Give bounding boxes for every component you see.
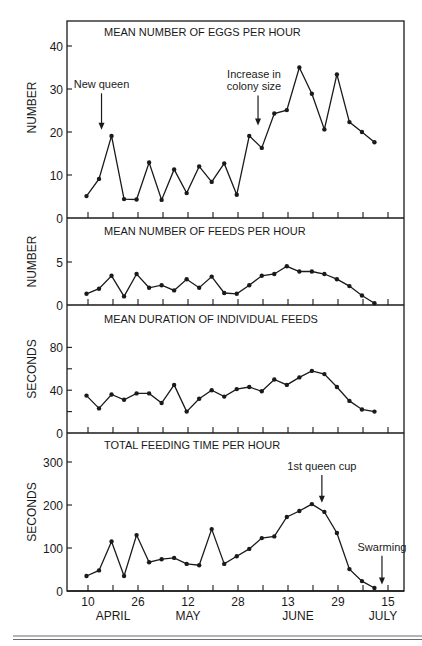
data-point (360, 130, 364, 134)
data-point (247, 283, 251, 287)
x-month-label: JUNE (282, 609, 313, 623)
y-tick-label: 30 (50, 83, 64, 97)
x-month-label: JULY (369, 609, 397, 623)
data-point (310, 502, 314, 506)
data-point (222, 562, 226, 566)
y-tick-label: 0 (56, 212, 63, 226)
panel-title: MEAN NUMBER OF FEEDS PER HOUR (104, 225, 306, 237)
data-point (134, 533, 138, 537)
data-point (122, 197, 126, 201)
data-point (372, 301, 376, 305)
data-point (310, 269, 314, 273)
y-tick-label: 5 (56, 256, 63, 270)
x-month-label: MAY (175, 609, 200, 623)
data-point (347, 567, 351, 571)
data-point (247, 547, 251, 551)
data-point (297, 269, 301, 273)
annotation-text: New queen (74, 78, 130, 90)
data-point (347, 399, 351, 403)
chart-canvas: 010203040MEAN NUMBER OF EGGS PER HOURNUM… (0, 0, 422, 646)
data-point (310, 92, 314, 96)
data-point (247, 134, 251, 138)
data-point (97, 177, 101, 181)
data-point (97, 406, 101, 410)
y-tick-label: 80 (50, 341, 64, 355)
y-tick-label: 0 (56, 585, 63, 599)
x-tick-label: 28 (231, 595, 245, 609)
data-point (272, 272, 276, 276)
x-tick-label: 26 (131, 595, 145, 609)
x-tick-label: 15 (381, 595, 395, 609)
data-point (360, 579, 364, 583)
data-point (235, 387, 239, 391)
data-point (172, 556, 176, 560)
data-point (235, 193, 239, 197)
y-tick-label: 0 (56, 427, 63, 441)
data-point (122, 398, 126, 402)
data-point (84, 194, 88, 198)
x-month-label: APRIL (96, 609, 131, 623)
panel-title: MEAN NUMBER OF EGGS PER HOUR (104, 26, 301, 38)
data-point (272, 377, 276, 381)
data-point (210, 527, 214, 531)
data-point (184, 191, 188, 195)
data-point (210, 388, 214, 392)
data-point (134, 197, 138, 201)
arrow-down-icon (319, 496, 325, 503)
y-tick-label: 10 (50, 169, 64, 183)
y-axis-label: NUMBER (25, 81, 39, 133)
data-point (109, 274, 113, 278)
data-point (184, 562, 188, 566)
y-tick-label: 20 (50, 126, 64, 140)
data-point (285, 515, 289, 519)
y-axis-label: NUMBER (25, 235, 39, 287)
data-point (172, 288, 176, 292)
data-point (260, 536, 264, 540)
data-point (97, 568, 101, 572)
data-point (159, 198, 163, 202)
annotation-text: colony size (227, 80, 281, 92)
x-tick-label: 29 (331, 595, 345, 609)
data-point (260, 146, 264, 150)
data-point (285, 383, 289, 387)
data-point (159, 283, 163, 287)
y-tick-label: 40 (50, 384, 64, 398)
data-point (297, 509, 301, 513)
data-point (322, 510, 326, 514)
arrow-down-icon (255, 119, 261, 126)
panel-title: TOTAL FEEDING TIME PER HOUR (104, 439, 280, 451)
data-point (159, 557, 163, 561)
data-point (260, 274, 264, 278)
data-point (147, 391, 151, 395)
data-point (372, 140, 376, 144)
x-tick-label: 12 (181, 595, 195, 609)
data-point (335, 385, 339, 389)
data-point (184, 277, 188, 281)
data-point (122, 294, 126, 298)
data-point (197, 563, 201, 567)
x-tick-label: 13 (281, 595, 295, 609)
chart-frame (67, 21, 404, 591)
data-point (335, 72, 339, 76)
arrow-down-icon (379, 578, 385, 585)
data-point (222, 291, 226, 295)
y-axis-label: SECONDS (25, 339, 39, 398)
data-point (347, 120, 351, 124)
data-point (297, 65, 301, 69)
y-tick-label: 100 (43, 542, 63, 556)
y-axis-label: SECONDS (25, 482, 39, 541)
data-point (235, 554, 239, 558)
data-point (235, 292, 239, 296)
data-point (197, 286, 201, 290)
data-point (134, 272, 138, 276)
data-point (197, 164, 201, 168)
y-tick-label: 300 (43, 456, 63, 470)
data-point (172, 167, 176, 171)
x-tick-label: 10 (81, 595, 95, 609)
data-point (134, 391, 138, 395)
data-point (147, 560, 151, 564)
data-point (147, 160, 151, 164)
data-point (222, 394, 226, 398)
data-series-line (87, 371, 375, 412)
data-point (184, 409, 188, 413)
